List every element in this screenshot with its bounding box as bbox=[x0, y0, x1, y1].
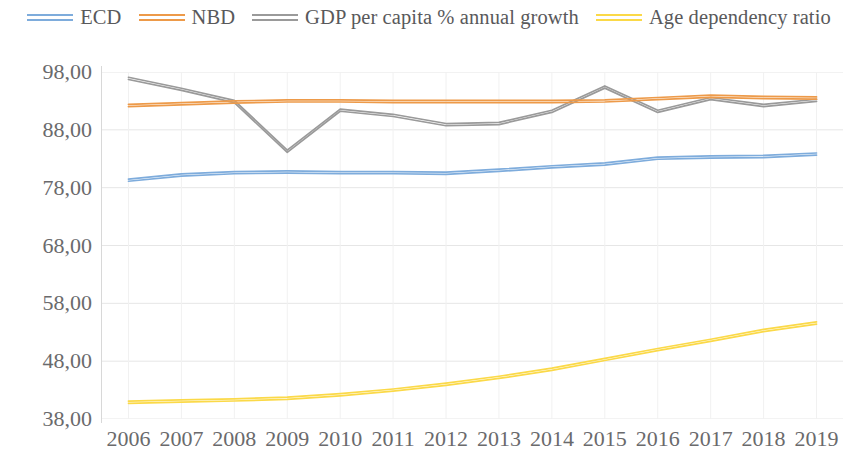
series-line-age-dependency-ratio bbox=[128, 324, 816, 403]
x-axis-tick-label: 2016 bbox=[636, 428, 680, 450]
legend-item-age[interactable]: Age dependency ratio bbox=[596, 7, 831, 28]
y-axis-tick-label: 88,00 bbox=[0, 119, 92, 141]
legend-swatch-gdp-icon bbox=[252, 13, 298, 22]
plot-svg bbox=[102, 72, 843, 419]
y-axis-tick-label: 38,00 bbox=[0, 408, 92, 430]
x-axis-tick-label: 2012 bbox=[424, 428, 468, 450]
x-axis: 2006200720082009201020112012201320142015… bbox=[102, 428, 843, 458]
x-axis-tick-label: 2008 bbox=[212, 428, 256, 450]
y-axis-tick-label: 58,00 bbox=[0, 292, 92, 314]
series-line-ecd bbox=[128, 155, 816, 181]
legend-swatch-nbd-icon bbox=[139, 13, 185, 22]
gridlines bbox=[102, 72, 843, 419]
x-axis-tick-label: 2013 bbox=[477, 428, 521, 450]
series-line-ecd bbox=[128, 153, 816, 179]
x-axis-tick-label: 2018 bbox=[742, 428, 786, 450]
chart-legend: ECD NBD GDP per capita % annual growth A… bbox=[0, 0, 858, 34]
x-axis-tick-label: 2011 bbox=[372, 428, 415, 450]
x-axis-tick-label: 2007 bbox=[159, 428, 203, 450]
x-axis-tick-label: 2015 bbox=[583, 428, 627, 450]
series-lines bbox=[128, 77, 816, 403]
x-axis-tick-label: 2009 bbox=[265, 428, 309, 450]
legend-label-nbd: NBD bbox=[192, 7, 236, 28]
y-axis-tick-label: 98,00 bbox=[0, 61, 92, 83]
legend-swatch-age-icon bbox=[596, 13, 642, 22]
x-axis-tick-label: 2006 bbox=[106, 428, 150, 450]
x-axis-tick-label: 2019 bbox=[795, 428, 839, 450]
series-line-gdp-per-capita-annual-growth bbox=[128, 77, 816, 150]
legend-label-age: Age dependency ratio bbox=[649, 7, 831, 28]
plot-area bbox=[102, 72, 843, 419]
x-axis-tick-label: 2017 bbox=[689, 428, 733, 450]
y-axis-tick-label: 78,00 bbox=[0, 177, 92, 199]
y-axis-tick-label: 68,00 bbox=[0, 235, 92, 257]
legend-label-gdp: GDP per capita % annual growth bbox=[305, 7, 579, 28]
x-axis-tick-label: 2014 bbox=[530, 428, 574, 450]
y-axis: 98,0088,0078,0068,0058,0048,0038,00 bbox=[0, 0, 95, 461]
chart-root: ECD NBD GDP per capita % annual growth A… bbox=[0, 0, 858, 461]
y-axis-tick-label: 48,00 bbox=[0, 350, 92, 372]
series-line-gdp-per-capita-annual-growth bbox=[128, 79, 816, 152]
legend-item-nbd[interactable]: NBD bbox=[139, 7, 236, 28]
x-axis-tick-label: 2010 bbox=[318, 428, 362, 450]
legend-item-gdp[interactable]: GDP per capita % annual growth bbox=[252, 7, 579, 28]
